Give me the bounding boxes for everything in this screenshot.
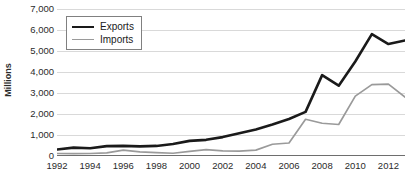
series-line-imports [57, 84, 405, 154]
y-axis-tick-label: 1,000 [14, 130, 54, 140]
y-axis-title-label: Millions [3, 63, 13, 97]
x-axis-tick-label: 1992 [46, 160, 67, 171]
x-axis-tick-label: 1994 [80, 160, 101, 171]
x-axis-tick-label: 2008 [312, 160, 333, 171]
legend-item-imports: Imports [72, 33, 134, 46]
y-axis-tick-label: 6,000 [14, 25, 54, 35]
x-axis-tick-labels: 1992199419961998200020022004200620082010… [57, 160, 405, 180]
legend-swatch-exports [72, 26, 94, 28]
legend-label-imports: Imports [100, 34, 133, 45]
x-axis-tick-label: 2002 [212, 160, 233, 171]
y-axis-tick-label: 5,000 [14, 46, 54, 56]
x-axis-tick-label: 2004 [245, 160, 266, 171]
x-axis-tick-label: 1998 [146, 160, 167, 171]
x-axis-tick-label: 2010 [345, 160, 366, 171]
x-axis-tick-label: 2000 [179, 160, 200, 171]
legend-label-exports: Exports [100, 21, 134, 32]
x-axis-tick-label: 1996 [113, 160, 134, 171]
line-chart-figure: Millions 01,0002,0003,0004,0005,0006,000… [0, 0, 412, 186]
legend-item-exports: Exports [72, 20, 134, 33]
y-axis-tick-label: 2,000 [14, 109, 54, 119]
y-axis-tick-labels: 01,0002,0003,0004,0005,0006,0007,000 [14, 0, 54, 160]
series-line-exports [57, 34, 405, 149]
y-axis-tick-label: 3,000 [14, 88, 54, 98]
y-axis-tick-label: 7,000 [14, 4, 54, 14]
chart-legend: Exports Imports [66, 16, 142, 50]
x-axis-tick-label: 2006 [278, 160, 299, 171]
x-axis-tick-label: 2012 [378, 160, 399, 171]
legend-swatch-imports [72, 39, 94, 40]
y-axis-tick-label: 4,000 [14, 67, 54, 77]
x-axis-line [57, 155, 405, 156]
